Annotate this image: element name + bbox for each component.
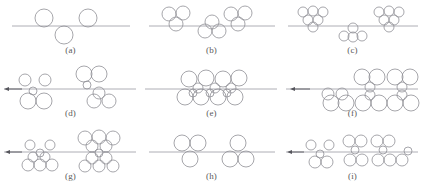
particle-circle (34, 159, 46, 171)
panel-label-a: (a) (0, 45, 141, 55)
particle-circle (371, 135, 383, 147)
panel-a: (a) (0, 0, 141, 63)
panel-c-drawing (282, 0, 423, 50)
particle-circle (215, 71, 231, 87)
particle-circle (78, 131, 92, 145)
particle-circle (383, 135, 395, 147)
particle-circle (79, 9, 97, 27)
particle-circle (322, 88, 334, 100)
panel-a-drawing (0, 0, 141, 50)
panel-label-g: (g) (0, 171, 141, 181)
panel-label-c: (c) (282, 45, 423, 55)
particle-circle (45, 140, 55, 150)
particle-circle (20, 93, 36, 109)
particle-circle (365, 82, 375, 92)
panel-f-drawing (282, 63, 423, 113)
particle-circle (36, 93, 52, 109)
particle-circle (306, 140, 316, 150)
particle-circle (321, 156, 333, 168)
panel-label-f: (f) (282, 108, 423, 118)
particle-circle (313, 15, 323, 25)
panel-b: (b) (141, 0, 282, 63)
particle-circle (100, 152, 112, 164)
particle-circle (224, 7, 238, 21)
panel-g-drawing (0, 126, 141, 176)
particle-circle (303, 15, 313, 25)
particle-circle (238, 6, 252, 20)
particle-circle (389, 15, 399, 25)
particle-circle (91, 66, 107, 82)
particle-circle (25, 140, 35, 150)
particle-circle (177, 89, 193, 105)
particle-circle (404, 147, 412, 155)
panel-label-b: (b) (141, 45, 282, 55)
particle-circle (86, 152, 98, 164)
panel-d: (d) (0, 63, 141, 126)
particle-circle (83, 81, 91, 89)
particle-circle (46, 159, 58, 171)
panel-h-drawing (141, 126, 282, 176)
flow-arrow-head (287, 150, 292, 154)
particle-circle (39, 74, 51, 86)
particle-circle (397, 82, 407, 92)
particle-circle (384, 154, 396, 166)
particle-circle (396, 154, 408, 166)
particle-circle (324, 140, 334, 150)
panel-g: (g) (0, 126, 141, 189)
panel-label-d: (d) (0, 108, 141, 118)
panel-i-drawing (282, 126, 423, 176)
panel-label-i: (i) (282, 171, 423, 181)
panel-f: (f) (282, 63, 423, 126)
particle-circle (22, 159, 34, 171)
particle-circle (351, 146, 359, 154)
particle-circle (379, 15, 389, 25)
particle-circle (343, 135, 355, 147)
panel-label-e: (e) (141, 108, 282, 118)
particle-circle (222, 151, 238, 167)
particle-circle (174, 135, 190, 151)
particle-circle (193, 83, 203, 93)
particle-circle (205, 15, 219, 29)
particle-circle (231, 17, 245, 31)
particle-circle (356, 154, 368, 166)
panel-h: (h) (141, 126, 282, 189)
panel-c: (c) (282, 0, 423, 63)
particle-circle (384, 22, 394, 32)
particle-circle (379, 146, 387, 154)
particle-circle (19, 74, 31, 86)
panel-label-h: (h) (141, 171, 282, 181)
particle-circle (372, 154, 384, 166)
particle-circle (348, 23, 358, 33)
particle-circle (102, 94, 116, 108)
particle-circle (55, 26, 73, 44)
particle-circle (230, 135, 246, 151)
flow-arrow-head (5, 150, 10, 154)
panel-e: (e) (141, 63, 282, 126)
particle-circle (162, 7, 176, 21)
panel-b-drawing (141, 0, 282, 50)
flow-arrow-head (290, 87, 295, 91)
particle-circle (308, 6, 318, 16)
particle-circle (238, 151, 254, 167)
particle-circle (308, 22, 318, 32)
particle-circle (35, 9, 53, 27)
panel-d-drawing (0, 63, 141, 113)
flow-arrow-head (4, 87, 9, 91)
particle-circle (344, 154, 356, 166)
panel-e-drawing (141, 63, 282, 113)
panel-i: (i) (282, 126, 423, 189)
particle-circle (182, 151, 198, 167)
particle-circle (176, 6, 190, 20)
particle-circle (339, 31, 349, 41)
particle-circle (355, 135, 367, 147)
particle-circle (95, 149, 103, 157)
figure-container: (a)(b)(c)(d)(e)(f)(g)(h)(i) (0, 0, 423, 190)
particle-circle (29, 87, 37, 95)
particle-circle (384, 6, 394, 16)
particle-circle (309, 156, 321, 168)
particle-circle (106, 131, 120, 145)
particle-circle (169, 17, 183, 31)
particle-circle (210, 83, 220, 93)
particle-circle (76, 66, 92, 82)
particle-circle (348, 32, 358, 42)
